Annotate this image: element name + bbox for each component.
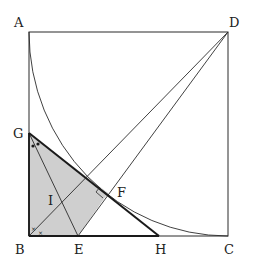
label-b: B — [15, 242, 25, 257]
label-f: F — [117, 185, 126, 200]
label-e: E — [74, 242, 84, 257]
angle-dot-icon — [36, 142, 39, 145]
label-a: A — [13, 15, 24, 30]
diagram-canvas: × × A D B C G E H F I — [0, 0, 254, 266]
label-g: G — [13, 126, 23, 141]
label-i: I — [48, 193, 53, 208]
label-h: H — [155, 242, 166, 257]
label-d: D — [229, 15, 239, 30]
geometry-diagram: × × A D B C G E H F I — [0, 0, 254, 266]
angle-dot-icon — [31, 144, 34, 147]
angle-x-mark-icon: × — [38, 229, 43, 236]
angle-x-mark-icon: × — [31, 225, 36, 232]
segment-ed — [78, 32, 228, 236]
label-c: C — [224, 242, 234, 257]
segment-bd — [29, 32, 228, 236]
